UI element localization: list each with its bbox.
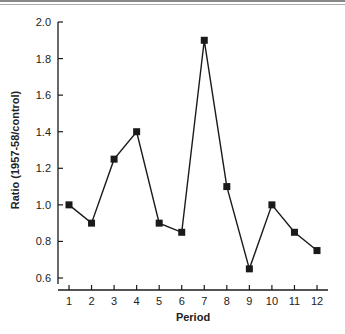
data-point-marker — [88, 220, 95, 227]
y-tick-label: 0.6 — [36, 272, 51, 284]
y-tick-label: 1.6 — [36, 89, 51, 101]
x-tick-label: 6 — [179, 295, 185, 307]
y-tick-label: 0.8 — [36, 235, 51, 247]
data-point-marker — [246, 265, 253, 272]
data-point-marker — [201, 37, 208, 44]
x-tick-label: 3 — [111, 295, 117, 307]
data-point-marker — [133, 128, 140, 135]
y-tick-label: 1.4 — [36, 126, 51, 138]
data-point-marker — [314, 247, 321, 254]
data-point-marker — [66, 201, 73, 208]
y-tick-label: 1.2 — [36, 162, 51, 174]
series — [66, 37, 321, 273]
y-ticks: 0.60.81.01.21.41.61.82.0 — [36, 16, 63, 284]
data-point-marker — [268, 201, 275, 208]
data-point-marker — [156, 220, 163, 227]
x-tick-label: 1 — [66, 295, 72, 307]
data-point-marker — [111, 156, 118, 163]
data-point-marker — [178, 229, 185, 236]
x-tick-label: 4 — [134, 295, 140, 307]
data-point-marker — [223, 183, 230, 190]
x-tick-label: 12 — [311, 295, 323, 307]
x-tick-label: 10 — [266, 295, 278, 307]
y-axis-label: Ratio (1957-58/control) — [9, 90, 21, 209]
x-tick-label: 9 — [246, 295, 252, 307]
x-tick-label: 11 — [289, 295, 300, 307]
y-tick-label: 1.0 — [36, 199, 51, 211]
series-line — [69, 40, 317, 269]
line-chart: 0.60.81.01.21.41.61.82.0 123456789101112… — [0, 0, 345, 334]
x-tick-label: 8 — [224, 295, 230, 307]
x-tick-label: 7 — [201, 295, 207, 307]
x-ticks: 123456789101112 — [66, 285, 323, 307]
x-axis-label: Period — [176, 311, 210, 323]
x-tick-label: 2 — [88, 295, 94, 307]
data-point-marker — [291, 229, 298, 236]
axes — [58, 22, 328, 290]
x-tick-label: 5 — [156, 295, 162, 307]
y-tick-label: 1.8 — [36, 53, 51, 65]
y-tick-label: 2.0 — [36, 16, 51, 28]
